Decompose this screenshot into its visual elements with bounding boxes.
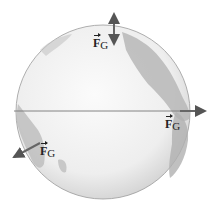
force-label-top: FG [93, 37, 108, 49]
earth-globe [16, 25, 190, 199]
force-label-right: FG [165, 118, 180, 130]
earth-gravity-diagram [0, 0, 214, 203]
force-subscript: G [47, 147, 55, 159]
force-subscript: G [100, 39, 108, 51]
force-subscript: G [172, 120, 180, 132]
force-label-lower-left: FG [40, 145, 55, 157]
